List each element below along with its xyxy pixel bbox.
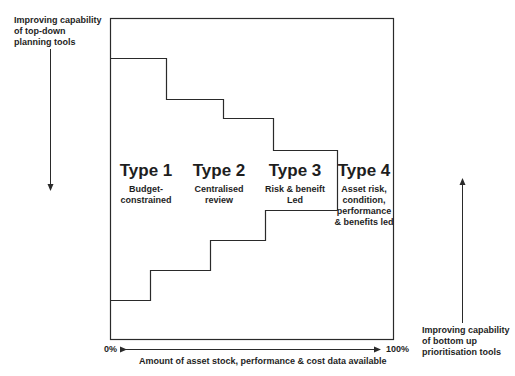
type-4: Type 4 Asset risk, condition, performanc… <box>333 161 395 228</box>
desc-line: performance <box>333 206 395 217</box>
label-line: Improving capability <box>422 325 510 336</box>
desc-line: constrained <box>116 195 176 206</box>
type-description: Centralised review <box>189 184 249 206</box>
type-title: Type 1 <box>116 161 176 180</box>
label-line: prioritisation tools <box>422 347 510 358</box>
desc-line: Centralised <box>189 184 249 195</box>
type-title: Type 2 <box>189 161 249 180</box>
top-down-capability-label: Improving capability of top-down plannin… <box>14 15 102 48</box>
diagram-canvas <box>0 0 515 376</box>
type-2: Type 2 Centralised review <box>189 161 249 206</box>
type-description: Asset risk, condition, performance & ben… <box>333 184 395 228</box>
desc-line: Risk & beneift <box>262 184 328 195</box>
label-line: of bottom up <box>422 336 510 347</box>
type-1: Type 1 Budget- constrained <box>116 161 176 206</box>
desc-line: Budget- <box>116 184 176 195</box>
x-axis-end-label: 100% <box>386 344 409 355</box>
type-3: Type 3 Risk & beneift Led <box>262 161 328 206</box>
desc-line: review <box>189 195 249 206</box>
type-title: Type 3 <box>262 161 328 180</box>
bottom-up-staircase <box>111 211 338 301</box>
desc-line: & benefits led <box>333 217 395 228</box>
bottom-up-capability-label: Improving capability of bottom up priori… <box>422 325 510 358</box>
desc-line: Asset risk, <box>333 184 395 195</box>
label-line: Improving capability <box>14 15 102 26</box>
type-description: Risk & beneift Led <box>262 184 328 206</box>
label-line: of top-down <box>14 26 102 37</box>
type-description: Budget- constrained <box>116 184 176 206</box>
desc-line: Led <box>262 195 328 206</box>
label-line: planning tools <box>14 37 102 48</box>
desc-line: condition, <box>333 195 395 206</box>
x-axis-start-label: 0% <box>104 344 117 355</box>
type-title: Type 4 <box>333 161 395 180</box>
x-axis-title: Amount of asset stock, performance & cos… <box>139 356 387 367</box>
